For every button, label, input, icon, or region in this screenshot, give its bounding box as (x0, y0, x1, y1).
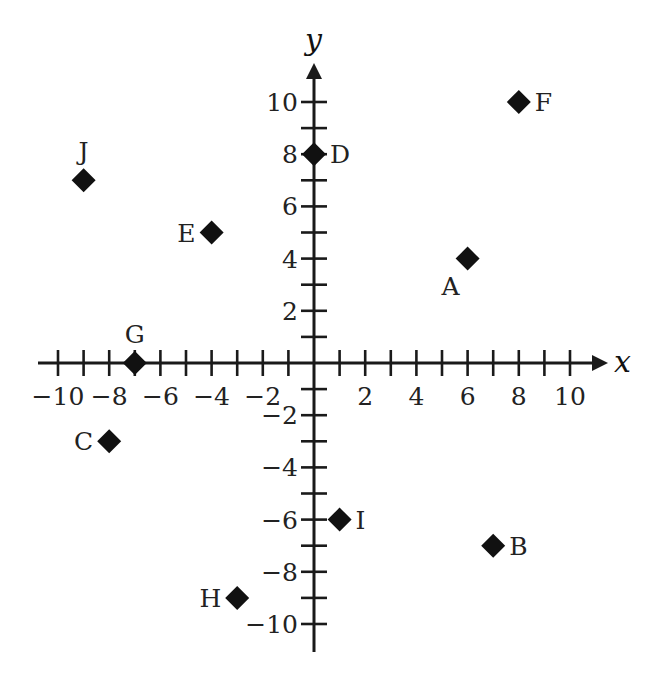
x-tick-label: −4 (193, 382, 230, 411)
y-tick-label: −6 (261, 506, 298, 535)
point-g: G (123, 320, 147, 375)
point-label: D (330, 140, 350, 169)
x-tick-label: 10 (554, 382, 586, 411)
point-label: H (199, 584, 221, 613)
point-f: F (507, 88, 552, 117)
y-tick-label: −10 (245, 610, 298, 639)
x-tick-label: 8 (511, 382, 527, 411)
point-h: H (199, 584, 249, 613)
y-tick-label: −2 (261, 401, 298, 430)
y-tick-label: −8 (261, 558, 298, 587)
point-label: E (177, 219, 195, 248)
diamond-marker-icon (456, 247, 480, 271)
y-axis-title: y (303, 22, 323, 57)
x-tick-label: −8 (91, 382, 128, 411)
point-label: F (535, 88, 552, 117)
point-j: J (72, 137, 96, 192)
point-label: G (125, 320, 145, 349)
diamond-marker-icon (302, 142, 326, 166)
y-tick-label: 8 (282, 140, 298, 169)
x-tick-label: −10 (32, 382, 85, 411)
point-c: C (74, 427, 121, 456)
point-a: A (441, 247, 480, 301)
y-tick-label: −4 (261, 453, 298, 482)
x-axis-title: x (614, 344, 631, 379)
x-tick-label: 6 (460, 382, 476, 411)
diamond-marker-icon (481, 534, 505, 558)
x-tick-label: −6 (142, 382, 179, 411)
diamond-marker-icon (225, 586, 249, 610)
point-label: A (441, 272, 461, 301)
point-b: B (481, 532, 527, 561)
point-label: J (76, 137, 89, 166)
diamond-marker-icon (328, 508, 352, 532)
y-tick-label: 4 (282, 245, 298, 274)
x-tick-label: 2 (357, 382, 373, 411)
diamond-marker-icon (97, 429, 121, 453)
x-axis-arrow-icon (592, 355, 608, 371)
diamond-marker-icon (123, 351, 147, 375)
point-label: I (356, 506, 366, 535)
diamond-marker-icon (507, 90, 531, 114)
y-axis-arrow-icon (306, 63, 322, 79)
point-label: B (509, 532, 527, 561)
y-tick-label: 10 (266, 88, 298, 117)
diamond-marker-icon (72, 168, 96, 192)
diamond-marker-icon (200, 221, 224, 245)
point-i: I (328, 506, 366, 535)
x-tick-label: 4 (408, 382, 424, 411)
coordinate-plane: x y −10−8−6−4−2246810108642−2−4−6−8−10 A… (0, 0, 654, 677)
data-points: ABCDEFGHIJ (72, 88, 553, 613)
point-e: E (177, 219, 223, 248)
point-label: C (74, 427, 93, 456)
y-tick-label: 2 (282, 297, 298, 326)
y-tick-label: 6 (282, 192, 298, 221)
